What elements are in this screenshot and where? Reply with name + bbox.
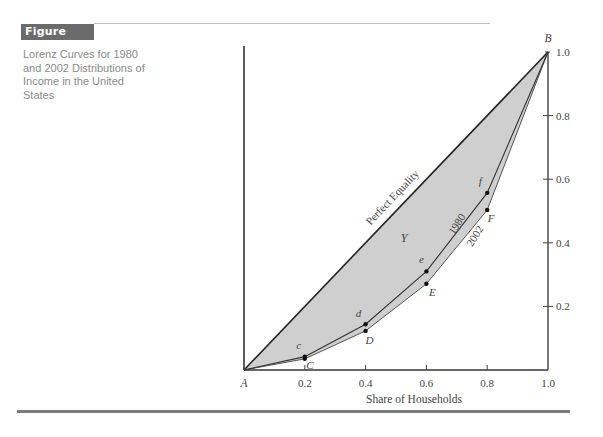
point-2002 [363,329,367,333]
point-1980 [424,269,428,273]
y-tick-label: 0.6 [556,173,570,185]
point-label-2002: F [487,212,495,224]
point-label-1980: c [296,339,301,351]
footer-rule [17,410,570,413]
point-label-1980: e [419,253,424,265]
point-label-1980: d [356,307,362,319]
x-tick-label: 0.2 [298,377,312,389]
point-2002 [424,282,428,286]
y-tick-label: 1.0 [556,46,570,58]
point-1980 [363,322,367,326]
point-label-2002: E [428,286,436,298]
x-tick-label: 0.6 [420,377,434,389]
perfect-equality-line [244,52,548,370]
corner-label-b: B [544,32,551,44]
x-tick-label: 0.8 [480,377,494,389]
x-tick-label: 0.4 [359,377,373,389]
point-1980 [485,191,489,195]
y-tick-label: 0.2 [556,300,570,312]
y-tick-label: 0.4 [556,237,570,249]
point-label-2002: C [306,359,314,371]
y-tick-label: 0.8 [556,110,570,122]
origin-label-a: A [239,377,248,389]
point-label-2002: D [365,334,374,346]
lorenz-chart: 0.20.40.60.81.00.20.40.60.81.0Share of H… [0,0,603,437]
x-tick-label: 1.0 [541,377,555,389]
x-axis-title: Share of Households [366,393,462,405]
